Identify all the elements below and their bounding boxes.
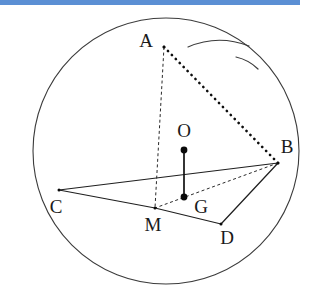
- edge-B-D: [221, 163, 278, 224]
- vertex-label-B: B: [281, 136, 294, 157]
- vertex-label-M: M: [145, 214, 162, 235]
- vertex-label-G: G: [194, 196, 208, 217]
- point-marker-D: [220, 223, 223, 226]
- point-marker-C: [58, 189, 61, 192]
- vertex-label-O: O: [177, 120, 191, 141]
- edge-A-B: [164, 47, 278, 163]
- edge-C-M: [59, 190, 155, 208]
- edge-C-B: [59, 163, 278, 190]
- point-marker-A: [163, 46, 166, 49]
- edge-M-D: [155, 208, 221, 224]
- edge-A-M: [155, 47, 164, 208]
- edge-B-M: [155, 163, 278, 208]
- point-marker-O: [181, 147, 188, 154]
- vertex-labels: A B C D M O G: [50, 30, 294, 248]
- diagram-canvas: A B C D M O G: [0, 0, 318, 290]
- sphere-highlight-arc-lower-icon: [236, 57, 258, 69]
- vertex-label-C: C: [50, 196, 63, 217]
- point-marker-G: [181, 194, 188, 201]
- point-marker-B: [277, 162, 280, 165]
- point-markers: [58, 46, 280, 226]
- sphere-highlight-arc-upper-icon: [188, 40, 249, 47]
- vertex-label-A: A: [139, 30, 153, 51]
- vertex-label-D: D: [220, 227, 234, 248]
- sphere-outline-circle: [33, 18, 299, 284]
- geometry-figure: A B C D M O G: [0, 0, 318, 290]
- point-marker-M: [154, 207, 157, 210]
